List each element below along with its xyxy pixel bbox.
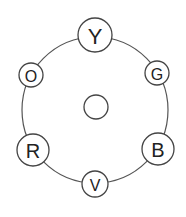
node-o: O	[19, 63, 43, 87]
node-label: V	[90, 177, 101, 194]
node-label: R	[26, 140, 40, 162]
node-r: R	[17, 134, 49, 166]
node-b: B	[142, 133, 174, 165]
node-label: G	[151, 66, 163, 83]
node-g: G	[145, 61, 169, 85]
center-node	[84, 95, 108, 119]
node-label: B	[151, 139, 164, 161]
color-wheel-diagram: YGBVRO	[0, 0, 186, 217]
node-label: Y	[88, 24, 103, 49]
node-v: V	[82, 171, 108, 197]
node-y: Y	[78, 18, 112, 52]
node-label: O	[25, 68, 37, 85]
